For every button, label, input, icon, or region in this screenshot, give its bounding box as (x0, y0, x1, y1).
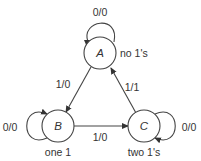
transition-a-b: 1/0 (56, 67, 91, 112)
state-b: B one 1 (42, 110, 74, 158)
transition-b-c: 1/0 (74, 126, 128, 143)
state-annotation: two 1's (128, 146, 160, 158)
transition-label: 0/0 (93, 6, 108, 18)
state-annotation: no 1's (120, 47, 148, 59)
transition-label: 0/0 (182, 121, 197, 133)
transition-label: 1/1 (125, 81, 140, 93)
state-label: B (54, 120, 62, 132)
transition-label: 1/0 (56, 78, 71, 90)
state-a: A no 1's (84, 37, 148, 69)
state-label: A (95, 47, 104, 59)
state-annotation: one 1 (45, 146, 71, 158)
state-label: C (140, 120, 149, 132)
transition-c-c: 0/0 (155, 112, 196, 140)
transition-label: 0/0 (3, 121, 18, 133)
state-c: C two 1's (128, 110, 160, 158)
transition-label: 1/0 (93, 131, 108, 143)
transition-b-b: 0/0 (3, 112, 47, 140)
transition-c-a: 1/1 (111, 68, 139, 113)
state-diagram: 0/0 1/0 1/1 1/0 0/0 0/0 A no 1's B one 1… (0, 0, 201, 161)
